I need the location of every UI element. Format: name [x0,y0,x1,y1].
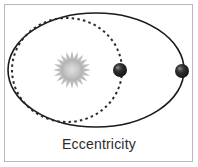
planet-inner-icon [113,63,127,77]
elliptical-orbit-path [8,13,184,127]
planet-outer-icon [175,64,189,78]
sun-icon [53,51,91,89]
figure-caption: Eccentricity [0,136,198,153]
eccentricity-figure: Eccentricity [0,0,198,167]
